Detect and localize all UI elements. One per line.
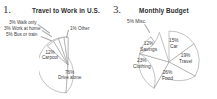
misc-name: Misc.: [135, 19, 146, 24]
walk-name: Walk only: [17, 20, 37, 25]
label-walk-only: 3% Walk only: [9, 20, 37, 25]
food-pct: 26%: [162, 70, 173, 76]
savings-name: Savings: [140, 47, 157, 53]
bus-pct: 5%: [6, 32, 13, 37]
pie-travel-to-work: [39, 36, 97, 94]
label-misc: 5% Misc.: [127, 19, 146, 25]
label-travel: 19% Travel: [179, 53, 192, 64]
drive-name: Drive alone: [58, 75, 81, 80]
carpool-name: Carpool: [42, 55, 58, 60]
travel-pct: 19%: [179, 53, 192, 59]
chart-title-monthly-budget: Monthly Budget: [139, 7, 189, 14]
bus-name: Bus or train: [14, 32, 38, 37]
home-name: Work at home: [12, 26, 41, 31]
label-other: 1% Other: [70, 26, 89, 31]
question-number-1: 1.: [3, 3, 11, 15]
clothing-name: Clothing: [133, 64, 151, 70]
walk-pct: 3%: [9, 20, 16, 25]
question-number-3: 3.: [113, 3, 121, 15]
pie-chart-panel-travel: 1. Travel to Work in U.S.: [0, 0, 107, 99]
other-pct: 1%: [70, 26, 77, 31]
car-name: Car: [169, 44, 179, 50]
label-drive-alone: 76% Drive alone: [58, 70, 81, 81]
travel-name: Travel: [179, 59, 192, 65]
car-pct: 15%: [169, 38, 179, 44]
label-bus-or-train: 5% Bus or train: [6, 32, 37, 37]
label-food: 26% Food: [162, 70, 173, 81]
label-car: 15% Car: [169, 38, 179, 49]
pie-svg-travel: [39, 36, 97, 94]
home-pct: 3%: [4, 26, 11, 31]
label-clothing: 23% Clothing: [133, 58, 151, 69]
label-work-at-home: 3% Work at home: [4, 26, 40, 31]
label-walk-only-text: 3% Walk only: [9, 20, 37, 25]
worksheet-page: 1. Travel to Work in U.S.: [0, 0, 217, 99]
chart-title-travel-to-work: Travel to Work in U.S.: [32, 7, 100, 14]
misc-pct: 5%: [127, 19, 134, 24]
label-savings: 12% Savings: [140, 41, 157, 52]
food-name: Food: [162, 76, 173, 82]
label-carpool: 12% Carpool: [42, 50, 58, 61]
other-name: Other: [78, 26, 90, 31]
pie-chart-panel-budget: 3. Monthly Budget 5% Misc.: [107, 0, 217, 99]
